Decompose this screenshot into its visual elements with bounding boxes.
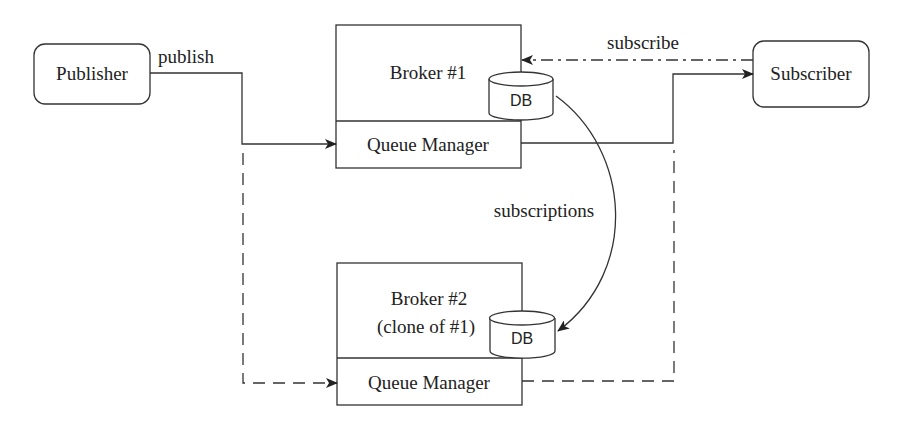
publisher-node: Publisher — [34, 44, 150, 104]
deliver-edge — [521, 74, 753, 143]
publish-edge: publish — [150, 46, 336, 144]
broker1-db-label: DB — [510, 92, 532, 109]
broker2-subtitle: (clone of #1) — [377, 316, 475, 338]
subscriptions-label: subscriptions — [494, 200, 594, 221]
backup-publish-edge — [243, 153, 337, 383]
broker2-title: Broker #2 — [391, 288, 468, 309]
broker2-db-icon: DB — [490, 311, 556, 358]
broker2-queue-manager: Queue Manager — [368, 372, 491, 393]
broker1-title: Broker #1 — [390, 62, 467, 83]
pubsub-diagram: Publisher Subscriber Broker #1 Queue Man… — [0, 0, 899, 430]
publish-label: publish — [158, 46, 214, 67]
broker2-db-label: DB — [511, 330, 533, 347]
subscribe-label: subscribe — [607, 32, 679, 53]
subscribe-edge: subscribe — [522, 32, 753, 60]
subscriber-label: Subscriber — [770, 63, 852, 84]
subscriber-node: Subscriber — [753, 41, 869, 107]
broker1-db-icon: DB — [489, 72, 553, 120]
publisher-label: Publisher — [56, 63, 128, 84]
broker1-queue-manager: Queue Manager — [367, 134, 490, 155]
